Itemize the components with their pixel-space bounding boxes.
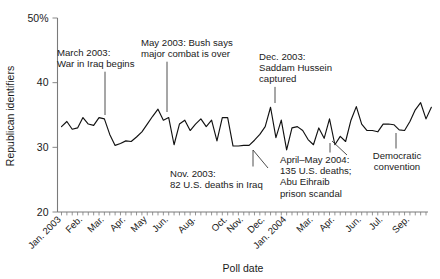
annotation-nov-2003-deaths: Nov. 2003:82 U.S. deaths in Iraq [170,150,263,190]
y-tick-label-50: 50% [27,12,48,24]
annotation-line: Abu Eihraib [280,176,330,187]
x-tick-label-jul-: Jul. [366,214,384,232]
x-tick-label-sep-: Sep. [390,214,412,236]
annotation-line: Nov. 2003: [170,168,216,179]
annotation-line: April–May 2004: [280,154,349,165]
x-tick-label-feb-: Feb. [63,214,84,235]
x-tick-label-apr-: Apr. [108,214,128,234]
x-tick-label-jun-: Jun. [343,214,363,234]
x-tick-label-apr-: Apr. [317,214,337,234]
y-tick-label-40: 40 [37,76,49,88]
annotation-line: Dec. 2003: [259,51,305,62]
annotation-line: prison scandal [280,188,342,199]
x-tick-label-jan-2003: Jan. 2003 [26,214,63,251]
annotation-line: 82 U.S. deaths in Iraq [170,179,263,190]
annotation-line: March 2003: [57,47,110,58]
x-tick-label-may: May [128,213,149,234]
annotation-line: captured [259,73,296,84]
annotation-line: War in Iraq begins [57,58,135,69]
x-tick-label-jun-: Jun. [150,214,170,234]
y-tick-label-20: 20 [37,206,49,218]
annotation-line: major combat is over [141,48,231,59]
y-axis-title: Republican identifiers [4,66,16,166]
annotation-line: convention [374,161,420,172]
annotation-leader-nov-2003-deaths [253,150,268,168]
x-tick-label-nov-: Nov. [224,214,245,235]
annotation-march-2003-war: March 2003:War in Iraq begins [57,47,135,115]
annotation-dec-2003-saddam: Dec. 2003:Saddam Husseincaptured [259,51,332,103]
x-axis-title: Poll date [223,262,264,274]
annotation-leader-april-may-2004 [332,141,347,155]
annotation-line: Saddam Hussein [259,62,332,73]
annotation-democratic-convention: Democraticconvention [373,133,422,172]
x-tick-label-mar-: Mar. [85,214,106,235]
annotation-line: Democratic [373,150,422,161]
line-chart: 20304050%Jan. 2003Feb.Mar.Apr.MayJun.Aug… [0,0,440,279]
x-tick-label-aug-: Aug. [175,214,197,236]
annotation-may-2003-major-combat: May 2003: Bush saysmajor combat is over [141,37,233,112]
annotation-line: 135 U.S. deaths; [280,165,351,176]
data-series-republican-identifiers [62,103,432,150]
x-tick-label-mar-: Mar. [294,214,315,235]
chart-container: 20304050%Jan. 2003Feb.Mar.Apr.MayJun.Aug… [0,0,440,279]
annotation-line: May 2003: Bush says [141,37,233,48]
y-tick-label-30: 30 [37,141,49,153]
annotation-april-may-2004: April–May 2004:135 U.S. deaths;Abu Eihra… [280,143,351,199]
